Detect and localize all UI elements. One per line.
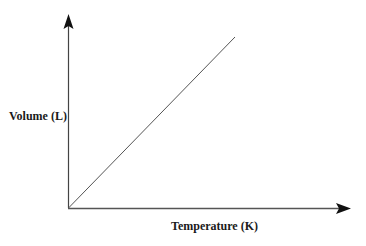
chart-canvas bbox=[0, 0, 366, 246]
x-axis-label: Temperature (K) bbox=[171, 220, 258, 232]
data-line bbox=[69, 37, 236, 208]
y-axis-label: Volume (L) bbox=[9, 110, 67, 122]
